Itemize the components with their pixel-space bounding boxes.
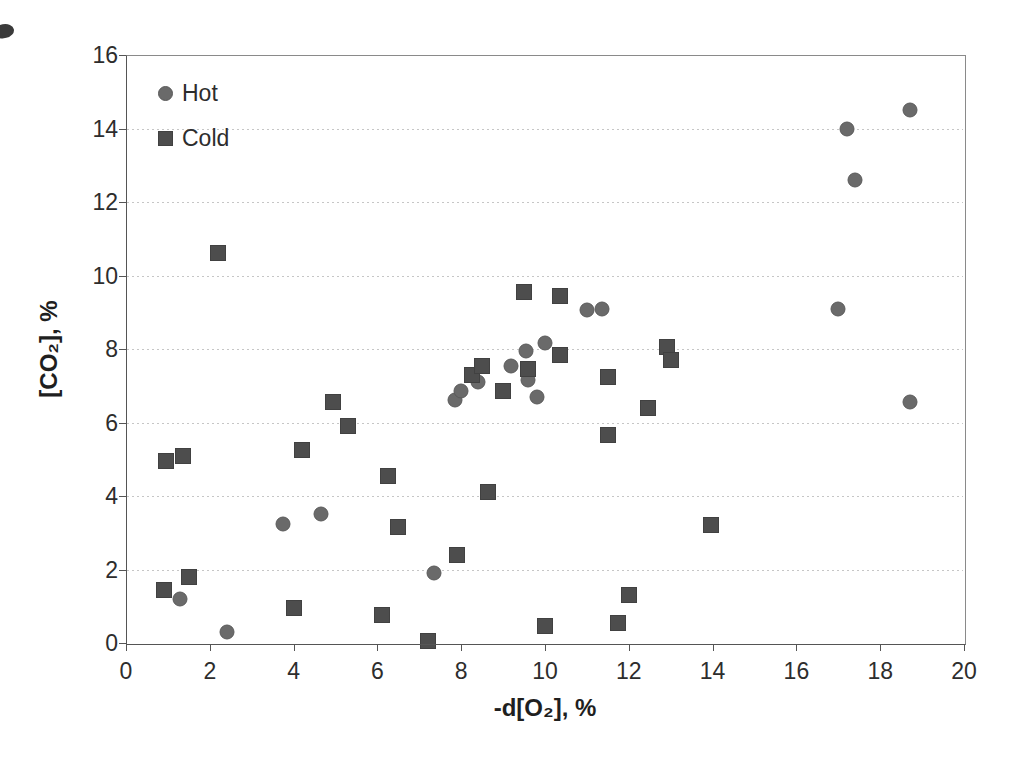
x-axis-title: -d[O₂], %: [494, 694, 597, 722]
x-tick-label-8: 8: [426, 658, 496, 684]
x-tick-8: [461, 644, 462, 651]
legend-item-hot: Hot: [158, 82, 229, 104]
y-tick-label-10: 10: [38, 263, 118, 289]
x-tick-18: [880, 644, 881, 651]
x-tick-label-2: 2: [175, 658, 245, 684]
x-tick-label-16: 16: [761, 658, 831, 684]
x-tick-4: [294, 644, 295, 651]
y-tick-6: [119, 423, 126, 424]
y-tick-label-6: 6: [38, 410, 118, 436]
legend-label-cold: Cold: [182, 127, 229, 149]
cold-square-marker-icon: [158, 131, 173, 146]
x-tick-label-6: 6: [342, 658, 412, 684]
x-tick-14: [713, 644, 714, 651]
y-tick-12: [119, 202, 126, 203]
hot-circle-marker-icon: [158, 86, 173, 101]
y-tick-10: [119, 276, 126, 277]
x-tick-16: [796, 644, 797, 651]
x-tick-label-12: 12: [594, 658, 664, 684]
x-tick-label-14: 14: [678, 658, 748, 684]
x-tick-label-0: 0: [91, 658, 161, 684]
x-tick-12: [629, 644, 630, 651]
plot-area: [126, 55, 966, 645]
x-tick-label-20: 20: [929, 658, 999, 684]
x-tick-label-18: 18: [845, 658, 915, 684]
x-tick-6: [377, 644, 378, 651]
chart-canvas: 024681012141618200246810121416 [CO₂], % …: [0, 0, 1024, 767]
legend-label-hot: Hot: [182, 82, 218, 104]
y-tick-label-12: 12: [38, 189, 118, 215]
y-tick-16: [119, 55, 126, 56]
x-tick-label-4: 4: [259, 658, 329, 684]
x-tick-label-10: 10: [510, 658, 580, 684]
legend: Hot Cold: [158, 82, 229, 172]
x-tick-10: [545, 644, 546, 651]
y-axis-title: [CO₂], %: [35, 300, 63, 397]
y-tick-label-0: 0: [38, 630, 118, 656]
y-tick-4: [119, 496, 126, 497]
x-tick-2: [210, 644, 211, 651]
y-tick-label-14: 14: [38, 116, 118, 142]
y-tick-14: [119, 129, 126, 130]
y-tick-2: [119, 570, 126, 571]
x-tick-0: [126, 644, 127, 651]
y-tick-label-4: 4: [38, 483, 118, 509]
legend-item-cold: Cold: [158, 127, 229, 149]
x-tick-20: [964, 644, 965, 651]
y-tick-label-2: 2: [38, 557, 118, 583]
y-tick-0: [119, 643, 126, 644]
y-tick-label-16: 16: [38, 42, 118, 68]
y-tick-8: [119, 349, 126, 350]
